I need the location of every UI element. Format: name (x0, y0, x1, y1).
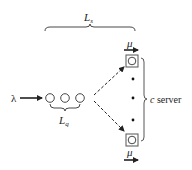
queue-customer (46, 94, 55, 103)
servers-count-label: c server (150, 94, 182, 105)
queue-length-brace (50, 104, 80, 111)
servers-bracket (141, 58, 147, 141)
arrival-rate-label: λ (11, 92, 17, 104)
queue-customer (76, 94, 85, 103)
route-arrow-top (94, 67, 124, 95)
system-length-brace (45, 24, 135, 31)
queueing-diagram: Ls λ Lq μ μ c server (0, 0, 192, 170)
service-rate-bottom-label: μ (126, 146, 133, 158)
queue-customer (61, 94, 70, 103)
route-arrow-bottom (94, 101, 124, 131)
ellipsis-dot (132, 97, 135, 100)
server-bottom (126, 134, 138, 146)
queue-length-label: Lq (58, 114, 69, 128)
ellipsis-dot (132, 78, 135, 81)
server-top (126, 55, 138, 67)
ellipsis-dot (132, 119, 135, 122)
service-rate-top-label: μ (126, 37, 133, 49)
system-length-label: Ls (83, 11, 93, 25)
